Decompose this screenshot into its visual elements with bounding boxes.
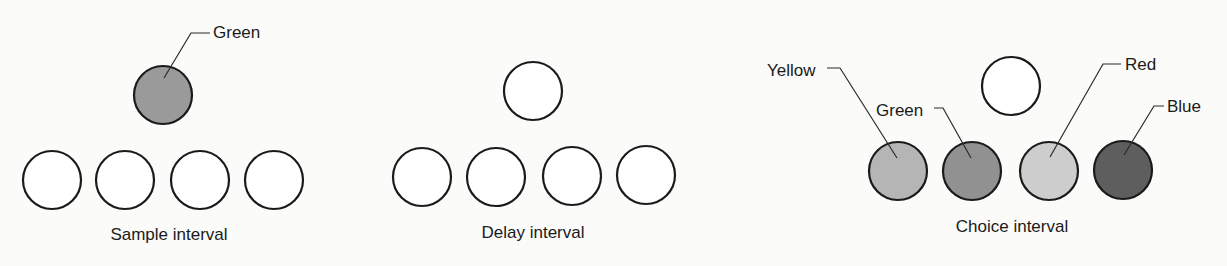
caption-sample-interval: Sample interval — [110, 225, 227, 244]
choice-top-stimulus — [982, 57, 1040, 115]
label-blue: Blue — [1167, 97, 1201, 116]
label-green-sample: Green — [213, 23, 260, 42]
caption-delay-interval: Delay interval — [482, 223, 585, 242]
response-key-3 — [171, 151, 229, 209]
choice-key-blue — [1094, 141, 1152, 199]
panel-sample-interval: Green Sample interval — [23, 23, 303, 244]
sample-stimulus-green — [134, 66, 192, 124]
response-key-3 — [543, 147, 601, 205]
panel-delay-interval: Delay interval — [393, 62, 675, 242]
delay-top-stimulus — [504, 62, 562, 120]
response-key-4 — [617, 146, 675, 204]
choice-key-yellow — [869, 142, 927, 200]
choice-key-green — [943, 142, 1001, 200]
choice-key-red — [1020, 142, 1078, 200]
response-key-4 — [245, 151, 303, 209]
label-green-choice: Green — [876, 101, 923, 120]
panel-choice-interval: Yellow Green Red Blue Choice interval — [767, 55, 1201, 236]
caption-choice-interval: Choice interval — [956, 217, 1068, 236]
response-key-2 — [96, 151, 154, 209]
response-key-1 — [23, 151, 81, 209]
response-key-2 — [467, 148, 525, 206]
response-key-1 — [393, 148, 451, 206]
delayed-matching-diagram: Green Sample interval Delay interval Yel… — [0, 0, 1227, 266]
label-yellow: Yellow — [767, 61, 816, 80]
label-red: Red — [1125, 55, 1156, 74]
